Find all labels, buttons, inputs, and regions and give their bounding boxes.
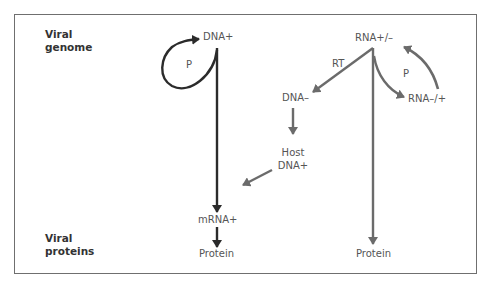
row-label-line: Viral (45, 232, 94, 245)
row-label-viral-genome: Viral genome (45, 28, 92, 54)
row-label-line: proteins (45, 245, 94, 258)
node-rna-minus-plus: RNA–/+ (408, 92, 446, 105)
label-polymerase-left: P (186, 58, 192, 71)
node-mrna-plus: mRNA+ (198, 213, 237, 226)
reverse-transcription-arrow (313, 48, 373, 92)
host-to-mrna-arrow (243, 170, 272, 185)
host-dna-line: DNA+ (276, 159, 310, 172)
node-dna-minus: DNA– (282, 91, 309, 104)
row-label-viral-proteins: Viral proteins (45, 232, 94, 258)
node-rna-plus-minus: RNA+/– (355, 31, 393, 44)
node-host-dna-plus: Host DNA+ (276, 146, 310, 172)
row-label-line: Viral (45, 28, 92, 41)
node-protein-left: Protein (199, 247, 234, 260)
label-polymerase-right: P (403, 67, 409, 80)
label-reverse-transcriptase: RT (332, 57, 344, 70)
rna-replication-arrow (404, 47, 438, 89)
row-label-line: genome (45, 41, 92, 54)
host-dna-line: Host (276, 146, 310, 159)
node-dna-plus: DNA+ (203, 30, 233, 43)
node-protein-right: Protein (356, 247, 391, 260)
complement-arrow (374, 56, 404, 97)
